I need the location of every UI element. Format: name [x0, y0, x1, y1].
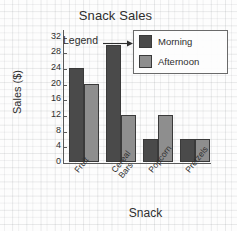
y-tick-label: 0: [39, 156, 61, 166]
y-axis-line: [63, 30, 64, 164]
legend-entry: Afternoon: [139, 55, 199, 68]
y-tick-mark: [63, 85, 67, 86]
y-tick-label: 24: [39, 62, 61, 72]
legend-swatch: [139, 55, 152, 68]
legend: MorningAfternoon: [133, 30, 228, 74]
y-tick-label: 28: [39, 46, 61, 56]
chart-title: Snack Sales: [0, 8, 231, 23]
legend-entry: Morning: [139, 35, 192, 48]
legend-label: Afternoon: [158, 56, 199, 67]
y-tick-mark: [63, 116, 67, 117]
y-tick-mark: [63, 132, 67, 133]
bar: [84, 84, 99, 162]
y-tick-mark: [63, 147, 67, 148]
y-tick-mark: [63, 53, 67, 54]
y-tick-label: 12: [39, 109, 61, 119]
y-tick-mark: [63, 69, 67, 70]
legend-label: Morning: [158, 36, 192, 47]
bar-group: [69, 29, 99, 162]
legend-callout-label: Legend: [63, 34, 98, 46]
y-tick-label: 20: [39, 78, 61, 88]
y-tick-mark: [63, 100, 67, 101]
bar: [106, 45, 121, 162]
bar-group: [106, 29, 136, 162]
bar: [69, 68, 84, 162]
y-tick-label: 32: [39, 31, 61, 41]
x-axis-title: Snack: [60, 206, 231, 220]
y-tick-label: 16: [39, 93, 61, 103]
bar-chart-figure: Snack Sales Sales ($) Snack 048121620242…: [0, 0, 237, 231]
y-tick-mark: [63, 163, 67, 164]
y-tick-label: 8: [39, 125, 61, 135]
y-axis-title: Sales ($): [11, 62, 23, 122]
legend-swatch: [139, 35, 152, 48]
right-arrow-icon: [103, 40, 133, 47]
y-tick-label: 4: [39, 140, 61, 150]
